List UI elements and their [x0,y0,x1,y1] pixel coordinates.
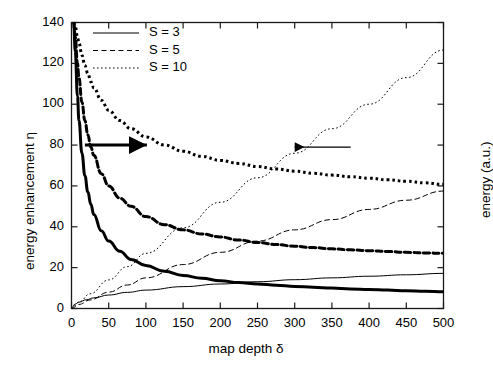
x-axis-title: map depth δ [0,341,492,356]
y-axis-title-right: energy (a.u.) [478,141,493,218]
legend-label-2: S = 10 [149,59,187,74]
plot-frame [72,23,444,309]
y-tick-label-left: 100 [30,95,64,110]
legend-label-0: S = 3 [149,24,180,39]
y-axis-title-left: energy enhancement η [22,132,37,270]
legend-label-1: S = 5 [149,42,180,57]
y-tick-label-left: 140 [30,14,64,29]
y-tick-label-left: 120 [30,54,64,69]
y-tick-label-left: 0 [30,300,64,315]
x-tick-label: 500 [422,315,466,330]
